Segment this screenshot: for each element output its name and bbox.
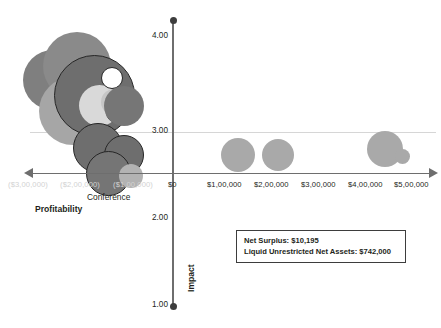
x-axis-title: Profitability (35, 204, 82, 214)
y-axis-top-dot-icon (170, 17, 177, 24)
x-axis-line (30, 173, 436, 175)
bubble-chart-canvas: ($3,00,000) ($2,00,000) ($1,00,000) $0 $… (0, 0, 441, 328)
conference-label: Conference (87, 192, 130, 202)
bubble-point (104, 86, 144, 126)
y-tick-label-3: 3.00 (152, 126, 168, 135)
bubble-point (395, 149, 410, 164)
liquid-net-assets-text: Liquid Unrestricted Net Assets: $742,000 (244, 247, 398, 258)
y-axis-title: Impact (186, 264, 196, 292)
bubble-point (262, 139, 294, 171)
x-tick-label-0: ($3,00,000) (8, 180, 48, 189)
x-tick-label-5: $2,00,000 (254, 180, 289, 189)
y-axis-bottom-dot-icon (170, 303, 177, 310)
summary-info-box: Net Surplus: $10,195 Liquid Unrestricted… (236, 230, 406, 263)
y-tick-label-1: 1.00 (152, 300, 168, 309)
x-tick-label-4: $1,00,000 (207, 180, 242, 189)
x-tick-label-2: ($1,00,000) (113, 180, 153, 189)
x-tick-label-1: ($2,00,000) (60, 180, 100, 189)
x-axis-right-arrow-icon (429, 168, 438, 178)
y-tick-label-2: 2.00 (152, 213, 168, 222)
x-tick-label-7: $4,00,000 (348, 180, 383, 189)
y-axis-line (172, 20, 174, 306)
net-surplus-text: Net Surplus: $10,195 (244, 236, 398, 247)
x-tick-label-8: $5,00,000 (394, 180, 429, 189)
x-tick-label-3: $0 (168, 180, 177, 189)
x-tick-label-6: $3,00,000 (301, 180, 336, 189)
y-tick-label-4: 4.00 (152, 31, 168, 40)
bubble-point (221, 138, 255, 172)
x-axis-left-arrow-icon (24, 168, 33, 178)
